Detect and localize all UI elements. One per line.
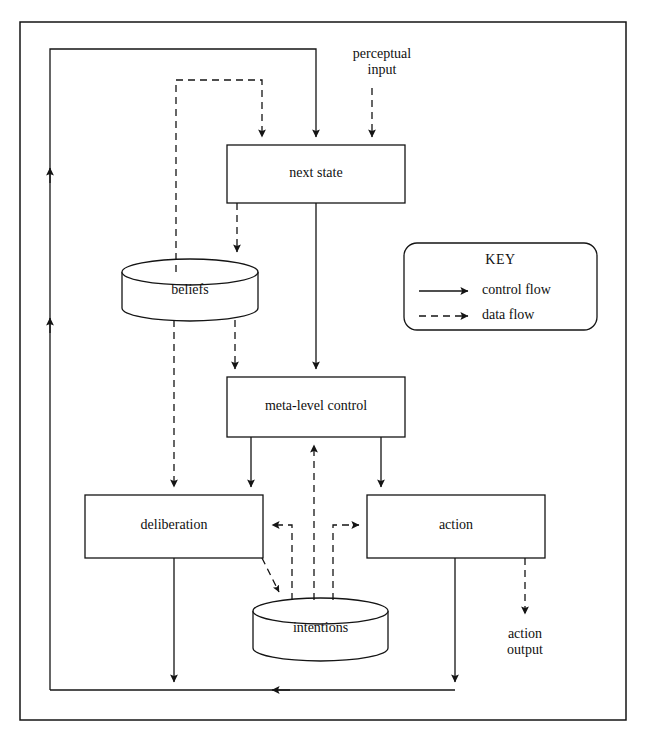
edge-deliberation-to-intentions (262, 558, 279, 592)
meta-level-control-box[interactable] (227, 377, 405, 437)
intentions-cylinder[interactable] (253, 598, 388, 661)
next-state-box[interactable] (227, 145, 405, 203)
edge-intentions-to-action (333, 525, 359, 600)
action-box[interactable] (367, 495, 545, 558)
diagram-canvas: next state beliefs meta-level control de… (0, 0, 646, 741)
beliefs-cylinder[interactable] (122, 259, 258, 321)
deliberation-box[interactable] (85, 495, 263, 558)
flow-diagram-svg (0, 0, 646, 741)
edge-intentions-to-deliberation (272, 525, 292, 600)
key-box (404, 243, 597, 330)
